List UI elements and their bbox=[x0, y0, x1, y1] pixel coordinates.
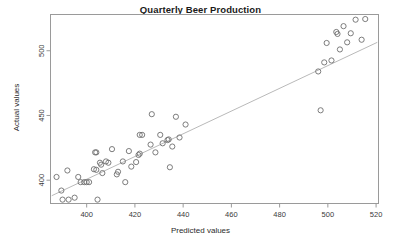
data-point bbox=[76, 174, 81, 179]
data-point bbox=[109, 147, 114, 152]
data-point bbox=[170, 144, 175, 149]
data-point bbox=[345, 40, 350, 45]
data-point bbox=[318, 108, 323, 113]
data-point bbox=[324, 40, 329, 45]
scatter-plot-canvas: 400420440460480500520400450500 bbox=[0, 0, 401, 247]
data-point bbox=[173, 114, 178, 119]
chart-figure: Quarterly Beer Production 40042044046048… bbox=[0, 0, 401, 247]
data-point bbox=[341, 24, 346, 29]
y-axis-tick-label: 500 bbox=[37, 44, 46, 57]
data-point bbox=[329, 58, 334, 63]
x-axis-tick-label: 500 bbox=[322, 210, 335, 219]
x-axis-tick-label: 400 bbox=[80, 210, 93, 219]
data-point bbox=[348, 31, 353, 36]
data-point bbox=[123, 180, 128, 185]
y-axis-tick-label: 450 bbox=[37, 109, 46, 122]
x-axis-tick-label: 440 bbox=[177, 210, 190, 219]
x-axis-tick-label: 460 bbox=[225, 210, 238, 219]
data-point bbox=[134, 159, 139, 164]
x-axis-tick-label: 420 bbox=[129, 210, 142, 219]
data-point bbox=[153, 150, 158, 155]
data-point bbox=[129, 164, 134, 169]
data-point bbox=[337, 47, 342, 52]
data-point bbox=[60, 197, 65, 202]
y-axis-title: Actual values bbox=[12, 48, 21, 168]
x-axis-title: Predicted values bbox=[0, 226, 401, 235]
data-point bbox=[54, 174, 59, 179]
x-axis-tick-label: 520 bbox=[370, 210, 383, 219]
data-point bbox=[322, 60, 327, 65]
data-point bbox=[359, 37, 364, 42]
data-point bbox=[167, 165, 172, 170]
data-point bbox=[363, 16, 368, 21]
data-point bbox=[66, 197, 71, 202]
x-axis-tick-label: 480 bbox=[273, 210, 286, 219]
data-point bbox=[65, 168, 70, 173]
y-axis-tick-label: 400 bbox=[37, 174, 46, 187]
data-point bbox=[148, 142, 153, 147]
data-point bbox=[353, 17, 358, 22]
reference-line bbox=[52, 42, 378, 195]
data-point bbox=[126, 148, 131, 153]
data-point bbox=[72, 195, 77, 200]
data-point bbox=[183, 122, 188, 127]
data-point bbox=[149, 112, 154, 117]
data-point bbox=[95, 197, 100, 202]
data-point bbox=[158, 132, 163, 137]
